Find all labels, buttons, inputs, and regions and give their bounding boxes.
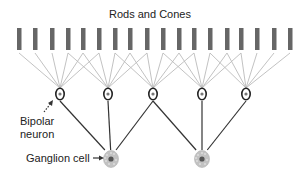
rod-bipolar-connections	[19, 53, 290, 88]
bipolar-neuron	[149, 88, 157, 100]
rod-cell	[177, 28, 182, 50]
rod-cell	[161, 28, 166, 50]
rod-cell	[208, 28, 213, 50]
bipolar-pointer-arrow	[44, 100, 53, 112]
rod-cell	[192, 28, 197, 50]
retina-diagram: Rods and Cones Bipolar neuron Ganglion c…	[0, 0, 300, 180]
bipolar-ganglion-connections	[60, 101, 246, 150]
rod-cell	[17, 28, 22, 50]
rod-cell	[272, 28, 277, 50]
rod-cell	[225, 28, 230, 50]
diagram-title: Rods and Cones	[0, 8, 300, 20]
rods-and-cones	[17, 28, 293, 50]
rod-cell	[50, 28, 55, 50]
rod-cell	[81, 28, 86, 50]
rod-cell	[113, 28, 118, 50]
rod-cell	[239, 28, 244, 50]
bipolar-neuron	[104, 88, 112, 100]
bipolar-label-line2: neuron	[20, 128, 54, 141]
rod-cell	[97, 28, 102, 50]
ganglion-pointer-arrow	[93, 156, 104, 161]
rod-cell	[145, 28, 150, 50]
rod-cell	[288, 28, 293, 50]
bipolar-label-line1: Bipolar	[20, 115, 54, 128]
bipolar-neuron-label: Bipolar neuron	[20, 115, 54, 141]
ganglion-cell	[195, 151, 210, 168]
rod-cell	[33, 28, 38, 50]
rod-cell	[255, 28, 260, 50]
ganglion-cells	[104, 151, 210, 168]
ganglion-cell	[104, 151, 119, 168]
bipolar-neuron	[198, 88, 206, 100]
bipolar-neuron	[56, 88, 64, 100]
bipolar-neurons	[56, 88, 250, 100]
ganglion-cell-label: Ganglion cell	[26, 152, 90, 165]
rod-cell	[66, 28, 71, 50]
rod-cell	[128, 28, 133, 50]
bipolar-neuron	[242, 88, 250, 100]
